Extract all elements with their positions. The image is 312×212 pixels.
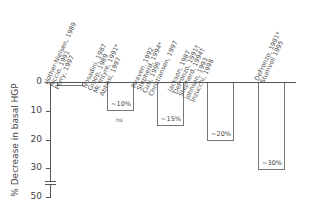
y-tick-30: 30 — [24, 162, 42, 172]
bar-label-group-5: ~30% — [257, 159, 287, 167]
bar-label-group-2: ~10% — [106, 100, 136, 108]
bar-label-group-3: ~15% — [156, 115, 186, 123]
bar-label-group-4: ~20% — [206, 130, 236, 138]
y-tick-50: 50 — [24, 191, 42, 201]
y-axis-upper — [50, 82, 51, 181]
ns-annotation: ns — [116, 116, 123, 123]
y-tick-10: 10 — [24, 105, 42, 115]
study-labels-group-5: DeFronzo, 1991* Stumvoll 1995 — [254, 31, 288, 85]
hgp-decrease-chart: % Decrease in basal HGP 0 10 20 30 50 ~1… — [0, 0, 312, 212]
y-tick-mark-30 — [46, 168, 50, 169]
axis-break-mark-top — [45, 181, 56, 182]
axis-break-mark-bottom — [45, 184, 56, 185]
y-tick-mark-50 — [46, 197, 50, 198]
y-tick-mark-10 — [46, 111, 50, 112]
y-axis-lower — [50, 184, 51, 198]
bar-group-5 — [258, 83, 285, 170]
study-labels-group-1: Hother-Nielsen, 1989 Riccio, 1991 Perry,… — [43, 21, 88, 90]
y-axis-label: % Decrease in basal HGP — [10, 83, 20, 197]
y-tick-0: 0 — [24, 76, 42, 86]
y-tick-20: 20 — [24, 134, 42, 144]
y-tick-mark-20 — [46, 140, 50, 141]
